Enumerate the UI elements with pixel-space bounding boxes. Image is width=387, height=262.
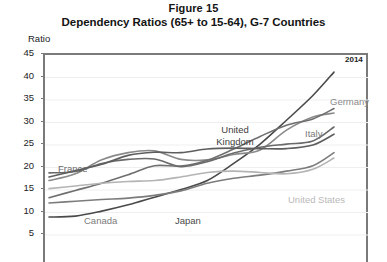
y-axis-tick-label: 30	[8, 115, 34, 126]
series-line-united-states	[49, 158, 334, 189]
y-axis-tick-label: 15	[8, 182, 34, 193]
series-label-germany: Germany	[330, 96, 369, 108]
series-label-canada: Canada	[84, 215, 117, 227]
series-label-line: Kingdom	[207, 136, 263, 148]
plot-area	[43, 53, 368, 262]
y-axis-unit-label: Ratio	[28, 33, 50, 44]
y-axis-tick-label: 5	[8, 227, 34, 238]
series-label-japan: Japan	[175, 215, 201, 227]
figure-title: Dependency Ratios (65+ to 15-64), G-7 Co…	[0, 16, 387, 28]
series-label-line: United	[207, 124, 263, 136]
y-axis-tick-label: 35	[8, 92, 34, 103]
series-label-united-kingdom: UnitedKingdom	[207, 124, 263, 148]
year-annotation: 2014	[345, 55, 363, 64]
chart-lines	[45, 55, 370, 262]
series-label-france: France	[58, 163, 88, 175]
figure-container: Figure 15 Dependency Ratios (65+ to 15-6…	[0, 0, 387, 262]
y-axis-tick-label: 25	[8, 137, 34, 148]
series-line-france	[49, 127, 334, 173]
series-label-italy: Italy	[305, 128, 322, 140]
y-axis-tick-label: 20	[8, 160, 34, 171]
series-label-united-states: United States	[288, 194, 345, 206]
figure-number: Figure 15	[0, 2, 387, 14]
y-axis-tick-label: 40	[8, 70, 34, 81]
y-axis-tick-label: 45	[8, 47, 34, 58]
y-axis-tick-label: 10	[8, 205, 34, 216]
